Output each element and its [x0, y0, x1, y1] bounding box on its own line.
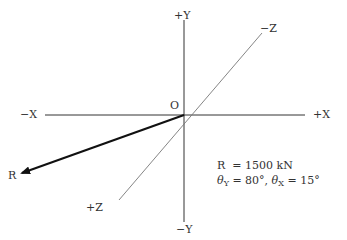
magnitude-line: R = 1500 kN [217, 158, 320, 173]
neg-z-label: −Z [260, 23, 277, 35]
magnitude-symbol: R [217, 159, 225, 172]
origin-label: O [170, 100, 179, 112]
angles-line: θY = 80°, θX = 15° [217, 173, 320, 191]
given-values: R = 1500 kN θY = 80°, θX = 15° [217, 158, 320, 191]
theta-y-symbol: θ [217, 174, 224, 187]
pos-z-label: +Z [86, 202, 103, 214]
pos-y-label: +Y [174, 10, 190, 22]
neg-x-label: −X [20, 109, 37, 121]
magnitude-value: = 1500 kN [232, 159, 293, 172]
diagram-canvas [0, 0, 347, 240]
theta-x-value: = 15° [284, 174, 320, 187]
vector-r-label: R [8, 170, 16, 182]
theta-y-value: = 80°, [229, 174, 272, 187]
neg-y-label: −Y [176, 224, 192, 236]
resultant-vector-arrow [22, 115, 184, 173]
pos-x-label: +X [313, 109, 330, 121]
